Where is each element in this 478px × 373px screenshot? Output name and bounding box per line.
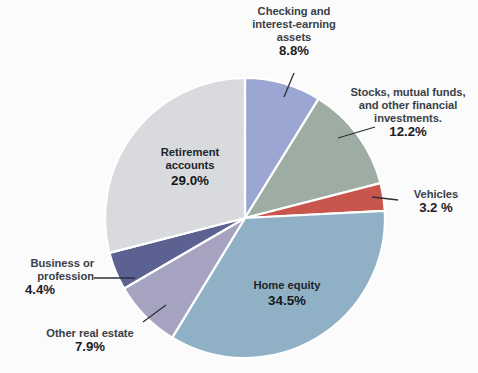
slice-label-checking: Checking and interest-earning assets 8.8… xyxy=(234,5,354,58)
slice-value-checking: 8.8% xyxy=(234,45,354,58)
slice-label-retirement-line1: Retirement xyxy=(161,146,219,158)
slice-label-business: Business or profession 4.4% xyxy=(0,257,94,297)
pie-chart: Checking and interest-earning assets 8.8… xyxy=(0,0,478,373)
slice-label-stocks-line1: Stocks, mutual funds, xyxy=(350,86,465,98)
slice-label-business-line1: Business or xyxy=(31,257,95,269)
slice-label-checking-line2: interest-earning xyxy=(252,18,336,30)
slice-value-home-equity: 34.5% xyxy=(227,294,347,307)
slice-value-business: 4.4% xyxy=(0,284,94,297)
slice-label-other-real-estate-line1: Other real estate xyxy=(46,327,133,339)
slice-label-retirement-line2: accounts xyxy=(165,159,214,171)
slice-label-home-equity: Home equity 34.5% xyxy=(227,279,347,307)
slice-label-vehicles-line1: Vehicles xyxy=(414,188,458,200)
slice-label-vehicles: Vehicles 3.2 % xyxy=(398,188,474,215)
slice-value-other-real-estate: 7.9% xyxy=(40,341,140,354)
slice-value-vehicles: 3.2 % xyxy=(398,202,474,215)
slice-label-checking-line3: assets xyxy=(277,31,312,43)
slice-label-home-equity-line1: Home equity xyxy=(253,279,320,291)
slice-value-retirement: 29.0% xyxy=(132,174,248,187)
slice-label-retirement: Retirement accounts 29.0% xyxy=(132,146,248,187)
slice-label-stocks: Stocks, mutual funds, and other financia… xyxy=(338,86,478,139)
slice-value-stocks: 12.2% xyxy=(338,126,478,139)
slice-label-stocks-line3: investments. xyxy=(374,112,442,124)
slice-label-stocks-line2: and other financial xyxy=(359,99,458,111)
slice-label-business-line2: profession xyxy=(37,270,94,282)
slice-label-other-real-estate: Other real estate 7.9% xyxy=(40,327,140,354)
slice-label-checking-line1: Checking and xyxy=(258,5,331,17)
